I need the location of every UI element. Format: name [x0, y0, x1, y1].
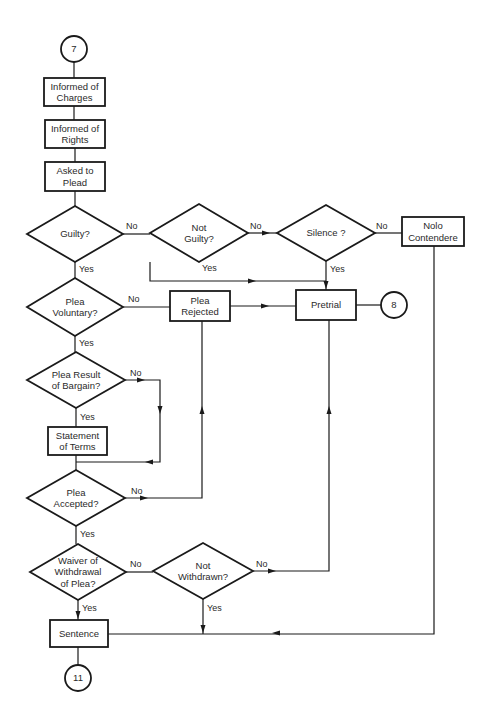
decision-label: Voluntary? [53, 307, 98, 318]
decision-label: of Plea? [61, 578, 96, 589]
arrowhead-icon [76, 611, 81, 619]
decision-label: Plea [66, 487, 86, 498]
arrowhead-icon [327, 406, 332, 414]
edge-label-yes: Yes [80, 529, 95, 539]
edge-label-yes: Yes [330, 264, 345, 274]
decision-plea-voluntary: PleaVoluntary? [27, 278, 123, 336]
arrowhead-icon [324, 281, 329, 289]
process-label: Sentence [59, 628, 99, 639]
arrowhead-icon [261, 304, 269, 309]
process-label: Contendere [408, 232, 458, 243]
process-label: Pretrial [311, 299, 341, 310]
flowchart-nodes: 7811Informed ofChargesInformed ofRightsA… [27, 36, 464, 691]
decision-not-withdrawn: NotWithdrawn? [153, 543, 253, 599]
edge-label-yes: Yes [82, 603, 97, 613]
edge-label-yes: Yes [207, 603, 222, 613]
decision-label: Silence ? [306, 227, 345, 238]
edge-label-yes: Yes [79, 338, 94, 348]
connector-lines [74, 62, 434, 665]
process-informed-rights: Informed ofRights [45, 120, 105, 148]
edge-label-no: No [128, 294, 140, 304]
plea-process-flowchart: 7811Informed ofChargesInformed ofRightsA… [0, 0, 490, 725]
process-label: Rejected [181, 306, 219, 317]
process-label: Asked to [57, 165, 94, 176]
arrowhead-icon [137, 378, 145, 383]
arrowhead-icon [201, 625, 206, 633]
arrowhead-icon [268, 569, 276, 574]
process-label: Informed of [51, 123, 99, 134]
decision-plea-accepted: PleaAccepted? [27, 470, 125, 526]
process-label: Plead [63, 177, 87, 188]
decision-silence: Silence ? [277, 205, 375, 261]
decision-guilty: Guilty? [27, 206, 123, 262]
edge-label-no: No [130, 559, 142, 569]
connector-line [125, 321, 202, 498]
process-label: Charges [57, 92, 93, 103]
arrowhead-icon [158, 406, 163, 414]
edge-label-yes: Yes [202, 263, 217, 273]
process-pretrial: Pretrial [296, 290, 356, 320]
decision-plea-result-of-bargain: Plea Resultof Bargain? [27, 352, 125, 408]
decision-label: Guilty? [60, 228, 90, 239]
edge-label-no: No [376, 221, 388, 231]
decision-label: Plea Result [52, 369, 101, 380]
arrowhead-icon [140, 496, 148, 501]
edge-label-yes: Yes [79, 264, 94, 274]
process-statement-of-terms: Statementof Terms [48, 427, 107, 455]
decision-label: of Bargain? [52, 380, 101, 391]
connector-start: 7 [61, 36, 87, 62]
connector-line [150, 262, 326, 281]
process-label: Plea [190, 295, 210, 306]
decision-not-guilty: NotGuilty? [150, 204, 248, 262]
arrowhead-icon [272, 631, 280, 636]
edge-label-no: No [126, 221, 138, 231]
connector-end: 11 [65, 665, 91, 691]
process-sentence: Sentence [50, 620, 108, 647]
arrowhead-icon [200, 406, 205, 414]
connector-number: 11 [73, 672, 83, 683]
edge-label-no: No [250, 221, 262, 231]
decision-label: Withdrawn? [178, 571, 228, 582]
connector-line [253, 320, 329, 571]
decision-label: Not [192, 222, 207, 233]
process-label: Statement [56, 430, 100, 441]
process-label: Informed of [50, 81, 98, 92]
edge-label-no: No [131, 486, 143, 496]
connector-pretrial-out: 8 [381, 292, 407, 318]
process-plea-rejected: PleaRejected [170, 291, 230, 321]
process-label: Nolo [423, 220, 443, 231]
decision-label: Accepted? [54, 498, 99, 509]
edge-label-no: No [130, 368, 142, 378]
decision-label: Not [196, 560, 211, 571]
process-nolo-contendere: NoloContendere [402, 217, 464, 246]
edge-labels: NoYesNoYesNoYesNoYesNoYesNoYesNoNoYesYes [79, 221, 388, 613]
connector-number: 8 [391, 299, 396, 310]
decision-label: Waiver of [58, 555, 98, 566]
decision-label: Guilty? [184, 233, 214, 244]
process-label: Rights [62, 134, 89, 145]
arrowhead-icon [262, 231, 270, 236]
decision-label: Plea [65, 296, 85, 307]
decision-label: Withdrawal [55, 566, 102, 577]
arrowhead-icon [145, 460, 153, 465]
process-informed-charges: Informed ofCharges [44, 78, 105, 106]
connector-number: 7 [71, 43, 76, 54]
decision-waiver-of-withdrawal: Waiver ofWithdrawalof Plea? [30, 544, 126, 600]
edge-label-yes: Yes [80, 412, 95, 422]
edge-label-no: No [256, 559, 268, 569]
process-asked-to-plead: Asked toPlead [45, 162, 105, 191]
arrowhead-icon [248, 279, 256, 284]
process-label: of Terms [59, 441, 96, 452]
